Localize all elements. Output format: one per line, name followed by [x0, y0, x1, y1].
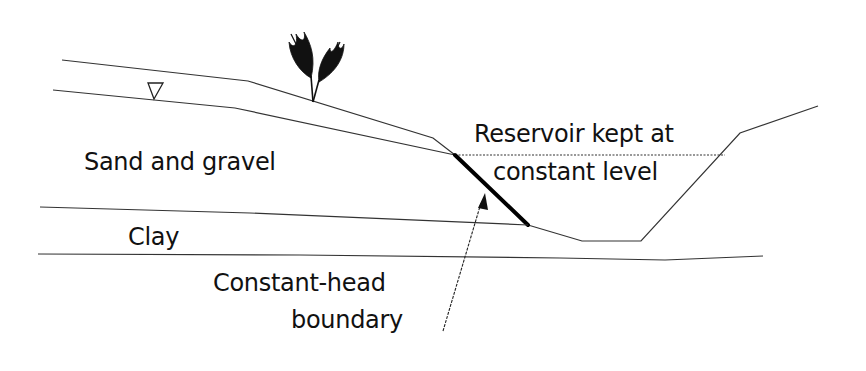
clay-bottom-line	[38, 254, 763, 260]
label-boundary-line2: boundary	[291, 305, 403, 335]
clay-top-line	[40, 207, 528, 225]
water-table-line	[53, 90, 455, 155]
label-reservoir-line2: constant level	[493, 157, 658, 187]
label-reservoir-line1: Reservoir kept at	[474, 119, 674, 149]
ground-surface-line	[62, 60, 455, 155]
arrow-head-icon	[478, 193, 488, 210]
label-clay: Clay	[128, 222, 179, 252]
cross-section-diagram	[0, 0, 866, 371]
label-boundary-line1: Constant-head	[213, 268, 386, 298]
label-sand-and-gravel: Sand and gravel	[84, 147, 276, 177]
water-table-triangle-icon	[148, 83, 163, 99]
plant-icon	[289, 32, 344, 102]
